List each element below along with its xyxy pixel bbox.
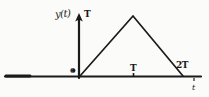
triangular-pulse-plot — [0, 0, 209, 97]
origin-label: 0 — [70, 66, 76, 74]
y-axis-function-label: y(t) — [55, 8, 71, 19]
x-tick-label-2t: 2T — [176, 61, 188, 70]
sketch-figure-canvas: y(t) T 0 T 2T t — [0, 0, 209, 97]
amplitude-peak-label: T — [84, 10, 91, 19]
x-tick-label-t: T — [130, 64, 137, 73]
x-axis-variable-label: t — [192, 84, 195, 92]
